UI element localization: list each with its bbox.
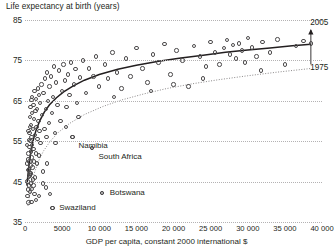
data-point bbox=[25, 194, 29, 198]
data-point bbox=[145, 80, 149, 84]
x-tick-5000: 5000 bbox=[54, 224, 71, 233]
data-point bbox=[31, 183, 35, 187]
data-point bbox=[29, 200, 33, 204]
data-point bbox=[259, 68, 263, 72]
data-point bbox=[44, 185, 48, 189]
x-tick-25000: 25 000 bbox=[199, 224, 222, 233]
data-point bbox=[43, 76, 47, 80]
data-point bbox=[39, 82, 43, 86]
curve-2005-label: 2005 bbox=[310, 18, 328, 27]
data-point bbox=[84, 91, 88, 95]
data-point bbox=[243, 60, 247, 64]
data-point bbox=[33, 175, 37, 179]
x-tick-20000: 20 000 bbox=[162, 224, 185, 233]
data-point bbox=[275, 37, 279, 41]
data-point bbox=[25, 161, 29, 165]
data-point bbox=[103, 62, 107, 66]
data-point bbox=[198, 54, 202, 58]
data-point-namibia bbox=[70, 135, 74, 139]
x-tick-10000: 10 000 bbox=[88, 224, 111, 233]
data-point bbox=[67, 93, 71, 97]
y-tick-65: 65 bbox=[13, 96, 22, 105]
data-point bbox=[268, 50, 272, 54]
data-point bbox=[171, 82, 175, 86]
data-point bbox=[254, 54, 258, 58]
data-point bbox=[66, 72, 70, 76]
y-tick-55: 55 bbox=[13, 137, 22, 146]
data-point bbox=[168, 72, 172, 76]
x-tick-40000: 40 000 bbox=[310, 224, 333, 233]
data-point bbox=[52, 64, 56, 68]
data-point bbox=[124, 56, 128, 60]
y-tick-75: 75 bbox=[13, 56, 22, 65]
x-axis-title: GDP per capita, constant 2000 internatio… bbox=[0, 237, 333, 246]
data-point bbox=[37, 153, 41, 157]
data-point bbox=[61, 62, 65, 66]
plot-area: NamibiaSouth AfricaBotswanaSwaziland2005… bbox=[25, 20, 322, 222]
data-point bbox=[42, 127, 46, 131]
data-point bbox=[26, 129, 30, 133]
data-point bbox=[38, 101, 42, 105]
y-tick-85: 85 bbox=[13, 16, 22, 25]
data-point bbox=[78, 75, 82, 79]
data-point bbox=[41, 169, 45, 173]
data-point bbox=[30, 165, 34, 169]
curve-shift-arrow-head bbox=[308, 29, 313, 34]
data-point bbox=[186, 84, 190, 88]
data-point bbox=[41, 91, 45, 95]
data-point bbox=[180, 58, 184, 62]
data-point-swaziland bbox=[50, 206, 54, 210]
data-point bbox=[50, 111, 54, 115]
data-point bbox=[32, 192, 36, 196]
data-point bbox=[91, 74, 95, 78]
gridline-y-55 bbox=[25, 141, 322, 142]
data-point bbox=[49, 74, 53, 78]
data-point bbox=[283, 62, 287, 66]
curve-1975-label: 1975 bbox=[310, 63, 328, 72]
data-point bbox=[57, 68, 61, 72]
annotation-south-africa: South Africa bbox=[99, 152, 142, 161]
data-point bbox=[87, 66, 91, 70]
data-point bbox=[36, 86, 40, 90]
data-point bbox=[44, 135, 48, 139]
data-point bbox=[31, 103, 35, 107]
data-point bbox=[140, 66, 144, 70]
data-point bbox=[81, 58, 85, 62]
data-point bbox=[35, 161, 39, 165]
y-tick-35: 35 bbox=[13, 218, 22, 227]
data-point bbox=[119, 86, 123, 90]
data-point bbox=[76, 115, 80, 119]
data-point bbox=[128, 74, 132, 78]
curve-2005 bbox=[27, 44, 311, 185]
data-point bbox=[44, 107, 48, 111]
x-axis-tick-labels: 0500010 00015 00020 00025 00030 00035 00… bbox=[25, 224, 322, 236]
data-point bbox=[36, 119, 40, 123]
data-point bbox=[237, 41, 241, 45]
data-point bbox=[37, 129, 41, 133]
data-point bbox=[58, 119, 62, 123]
data-point bbox=[55, 103, 59, 107]
data-point bbox=[204, 64, 208, 68]
annotation-botswana: Botswana bbox=[110, 188, 145, 197]
data-point bbox=[156, 60, 160, 64]
x-tick-35000: 35 000 bbox=[273, 224, 296, 233]
data-point bbox=[64, 105, 68, 109]
gridline-y-85 bbox=[25, 20, 322, 21]
data-point bbox=[72, 82, 76, 86]
data-point bbox=[110, 50, 114, 54]
data-point bbox=[151, 52, 155, 56]
data-point bbox=[47, 84, 51, 88]
data-point bbox=[69, 60, 73, 64]
gridline-y-65 bbox=[25, 101, 322, 102]
data-point bbox=[213, 50, 217, 54]
x-tick-15000: 15 000 bbox=[125, 224, 148, 233]
data-point bbox=[115, 70, 119, 74]
chart-title: Life expectancy at birth (years) bbox=[6, 2, 120, 11]
gridline-y-35 bbox=[25, 222, 322, 223]
data-point bbox=[63, 78, 67, 82]
data-point bbox=[301, 39, 305, 43]
data-point bbox=[309, 41, 313, 45]
x-tick-30000: 30 000 bbox=[236, 224, 259, 233]
data-point bbox=[240, 48, 244, 52]
y-axis-tick-labels: 354555657585 bbox=[0, 20, 22, 222]
